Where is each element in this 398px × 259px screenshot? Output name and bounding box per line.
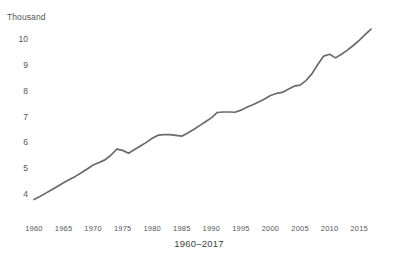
- x-tick-label-1960: 1960: [25, 224, 43, 233]
- line-chart: Thousand 45678910 1960196519701975198019…: [0, 0, 398, 259]
- x-tick-label-2000: 2000: [262, 224, 280, 233]
- plot-area: [0, 0, 398, 259]
- x-tick-label-1990: 1990: [203, 224, 221, 233]
- y-tick-label-10: 10: [2, 34, 28, 44]
- y-tick-label-9: 9: [2, 60, 28, 70]
- x-tick-label-2005: 2005: [291, 224, 309, 233]
- x-axis-title: 1960–2017: [0, 238, 398, 249]
- x-tick-label-1980: 1980: [143, 224, 161, 233]
- y-tick-label-8: 8: [2, 86, 28, 96]
- x-tick-label-2015: 2015: [350, 224, 368, 233]
- y-tick-label-6: 6: [2, 137, 28, 147]
- x-tick-label-2010: 2010: [321, 224, 339, 233]
- x-tick-label-1995: 1995: [232, 224, 250, 233]
- x-tick-label-1975: 1975: [114, 224, 132, 233]
- x-tick-label-1965: 1965: [55, 224, 73, 233]
- y-tick-label-4: 4: [2, 189, 28, 199]
- data-series-line: [34, 29, 371, 200]
- x-tick-label-1985: 1985: [173, 224, 191, 233]
- x-tick-label-1970: 1970: [84, 224, 102, 233]
- y-tick-label-5: 5: [2, 163, 28, 173]
- y-tick-label-7: 7: [2, 112, 28, 122]
